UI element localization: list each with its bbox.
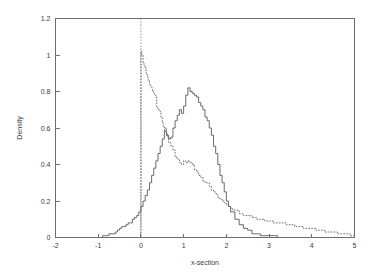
plot-border <box>56 19 355 238</box>
plot-frame <box>56 19 355 238</box>
y-tick-label: 0.2 <box>41 198 51 205</box>
x-tick-label: 4 <box>310 242 314 249</box>
series-dashed-density <box>139 51 355 237</box>
y-axis-title: Density <box>16 116 24 140</box>
series-layer <box>98 51 354 237</box>
y-tick-label: 0.6 <box>41 125 51 132</box>
x-axis-title: x-section <box>191 259 219 266</box>
series-solid-density <box>98 88 354 238</box>
x-tick-label: 3 <box>267 242 271 249</box>
x-tick-label: -1 <box>95 242 101 249</box>
x-tick-label: 2 <box>224 242 228 249</box>
x-tick-label: -2 <box>52 242 58 249</box>
y-tick-label: 0.8 <box>41 88 51 95</box>
axis-ticks <box>56 19 355 238</box>
chart-figure: -2-101234500.20.40.60.811.2 x-section De… <box>0 0 373 277</box>
x-tick-label: 0 <box>139 242 143 249</box>
y-tick-label: 0 <box>47 234 51 241</box>
y-tick-label: 0.4 <box>41 161 51 168</box>
y-tick-label: 1.2 <box>41 15 51 22</box>
density-plot: -2-101234500.20.40.60.811.2 x-section De… <box>0 0 373 277</box>
axis-tick-labels: -2-101234500.20.40.60.811.2 <box>41 15 357 249</box>
x-tick-label: 5 <box>353 242 357 249</box>
y-tick-label: 1 <box>47 52 51 59</box>
x-tick-label: 1 <box>182 242 186 249</box>
